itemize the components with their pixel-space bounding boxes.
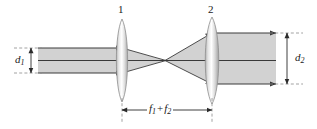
d1-subscript: 1 (21, 58, 25, 67)
output-beam-shading (212, 33, 276, 84)
d1-label: d1 (13, 54, 27, 67)
lens-1 (116, 19, 127, 102)
lens-2 (205, 17, 219, 104)
lens-2-number-label: 2 (208, 4, 214, 15)
lens-1-number-label: 1 (118, 4, 124, 15)
d2-label: d2 (293, 52, 307, 65)
focal-length-sum-label: f1+f2 (147, 103, 173, 116)
optical-beam-expander-figure: 1 2 d1 d2 f1+f2 (0, 0, 317, 129)
d2-subscript: 2 (301, 56, 305, 65)
f2-subscript: 2 (167, 107, 171, 116)
